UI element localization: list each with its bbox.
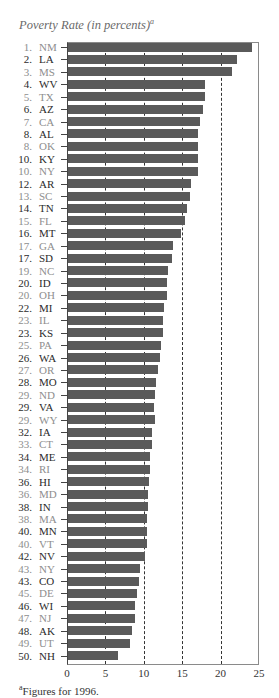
bar (68, 477, 149, 486)
rank-label: 10. (6, 165, 32, 177)
state-label: MD (39, 488, 57, 500)
bar (68, 316, 163, 325)
y-tick (61, 593, 67, 594)
rank-label: 20. (6, 289, 32, 301)
y-tick (61, 47, 67, 48)
rank-label: 10. (6, 153, 32, 165)
bar-row: 4.WV (0, 78, 279, 90)
y-tick (61, 407, 67, 408)
state-label: MS (39, 66, 55, 78)
rank-label: 20. (6, 277, 32, 289)
y-tick (61, 606, 67, 607)
rank-label: 16. (6, 227, 32, 239)
bar-row: 49.UT (0, 637, 279, 649)
rank-label: 50. (6, 650, 32, 662)
y-tick (61, 271, 67, 272)
bar-row: 29.VA (0, 401, 279, 413)
bar-row: 34.RI (0, 463, 279, 475)
bar-row: 32.IA (0, 426, 279, 438)
state-label: TX (39, 91, 54, 103)
bar (68, 341, 161, 350)
y-tick (61, 358, 67, 359)
rank-label: 1. (6, 41, 32, 53)
y-tick (61, 171, 67, 172)
rank-label: 34. (6, 451, 32, 463)
bar-row: 17.SD (0, 252, 279, 264)
x-tick-label: 0 (64, 667, 70, 679)
bar-row: 10.NY (0, 165, 279, 177)
bar (68, 117, 200, 126)
state-label: GA (39, 240, 55, 252)
y-tick (61, 72, 67, 73)
rank-label: 23. (6, 314, 32, 326)
rank-label: 17. (6, 252, 32, 264)
state-label: AR (39, 178, 54, 190)
bar-row: 2.LA (0, 53, 279, 65)
bar (68, 564, 140, 573)
rank-label: 6. (6, 103, 32, 115)
state-label: ID (39, 277, 51, 289)
y-tick (61, 531, 67, 532)
y-tick (61, 159, 67, 160)
bar-row: 22.MI (0, 302, 279, 314)
state-label: ME (39, 451, 56, 463)
bar-row: 26.WA (0, 352, 279, 364)
rank-label: 12. (6, 178, 32, 190)
title-footnote-marker: a (150, 17, 154, 26)
rank-label: 47. (6, 612, 32, 624)
bar (68, 626, 132, 635)
state-label: OR (39, 364, 54, 376)
state-label: AZ (39, 103, 54, 115)
bar-row: 23.KS (0, 327, 279, 339)
state-label: FL (39, 215, 52, 227)
bar (68, 365, 158, 374)
bar (68, 378, 156, 387)
rank-label: 34. (6, 463, 32, 475)
bar (68, 353, 160, 362)
state-label: VA (39, 401, 53, 413)
state-label: MA (39, 513, 57, 525)
bar (68, 328, 163, 337)
bar-row: 1.NM (0, 41, 279, 53)
bar-row: 40.MN (0, 525, 279, 537)
state-label: SD (39, 252, 53, 264)
bar (68, 303, 164, 312)
y-tick (61, 569, 67, 570)
bar (68, 415, 155, 424)
y-tick (61, 469, 67, 470)
bar-row: 38.IN (0, 501, 279, 513)
x-tick-label: 15 (177, 667, 188, 679)
bar (68, 614, 135, 623)
bar-row: 25.PA (0, 339, 279, 351)
rank-label: 48. (6, 625, 32, 637)
state-label: WV (39, 78, 57, 90)
y-tick (61, 246, 67, 247)
bar (68, 266, 168, 275)
bar-row: 6.AZ (0, 103, 279, 115)
bar (68, 589, 137, 598)
state-label: ND (39, 389, 55, 401)
bar-row: 8.AL (0, 128, 279, 140)
bar (68, 179, 191, 188)
bar (68, 129, 198, 138)
chart-title: Poverty Rate (in percents)a (19, 17, 154, 33)
bar-row: 28.MO (0, 376, 279, 388)
y-tick (61, 320, 67, 321)
state-label: NC (39, 265, 54, 277)
bar (68, 142, 198, 151)
bar (68, 552, 145, 561)
bar-row: 17.GA (0, 240, 279, 252)
bar-row: 29.WY (0, 414, 279, 426)
state-label: IA (39, 426, 51, 438)
y-tick (61, 494, 67, 495)
bar-row: 46.WI (0, 600, 279, 612)
bar (68, 601, 135, 610)
state-label: CO (39, 575, 54, 587)
bar (68, 577, 139, 586)
bar-row: 43.CO (0, 575, 279, 587)
rank-label: 14. (6, 202, 32, 214)
y-tick (61, 295, 67, 296)
rank-label: 13. (6, 190, 32, 202)
y-tick (61, 395, 67, 396)
state-label: OH (39, 289, 55, 301)
